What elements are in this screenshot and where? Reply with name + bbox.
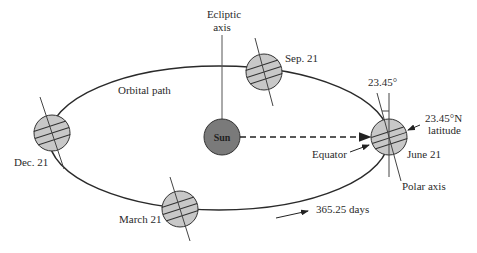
ecliptic-axis-label-line1: Ecliptic bbox=[207, 8, 241, 20]
june21-label: June 21 bbox=[407, 148, 441, 160]
equator-label: Equator bbox=[312, 148, 347, 160]
earth-orbit-diagram: Sun bbox=[0, 0, 477, 253]
sun-label: Sun bbox=[214, 132, 231, 143]
earth-sep21 bbox=[245, 38, 284, 106]
latitude-label-line1: 23.45°N bbox=[425, 112, 462, 124]
period-label: 365.25 days bbox=[316, 203, 369, 215]
dec21-label: Dec. 21 bbox=[14, 156, 48, 168]
latitude-arrow bbox=[408, 125, 420, 130]
ecliptic-axis-label-line2: axis bbox=[213, 21, 231, 33]
period-arrow bbox=[276, 211, 308, 218]
orbital-path-label: Orbital path bbox=[118, 84, 171, 96]
equator-arrow bbox=[350, 145, 369, 152]
march21-label: March 21 bbox=[119, 213, 161, 225]
sun: Sun bbox=[204, 119, 240, 155]
latitude-label-line2: latitude bbox=[428, 124, 461, 136]
polar-axis-label: Polar axis bbox=[402, 180, 446, 192]
earth-june21 bbox=[370, 93, 408, 181]
sep21-label: Sep. 21 bbox=[285, 52, 318, 64]
tilt-angle-label: 23.45° bbox=[368, 76, 397, 88]
earth-march21 bbox=[161, 177, 200, 241]
